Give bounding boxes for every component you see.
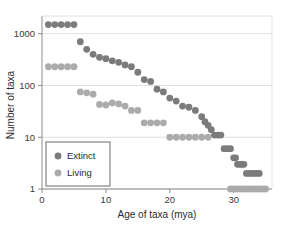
- data-point: [173, 134, 180, 141]
- data-point: [109, 100, 116, 107]
- x-tick-label: 10: [101, 194, 112, 205]
- data-point: [71, 63, 78, 70]
- legend-label: Living: [67, 167, 92, 178]
- data-point: [51, 63, 58, 70]
- data-point: [58, 63, 65, 70]
- data-point: [141, 76, 148, 83]
- data-point: [179, 103, 186, 110]
- data-point: [154, 86, 161, 93]
- data-point: [64, 21, 71, 28]
- data-point: [102, 102, 109, 109]
- x-axis-title: Age of taxa (mya): [118, 209, 197, 220]
- data-point: [45, 21, 52, 28]
- data-point: [83, 46, 90, 53]
- data-point: [109, 57, 116, 64]
- data-point: [77, 38, 84, 45]
- data-point: [90, 51, 97, 58]
- data-point: [147, 119, 154, 126]
- data-point: [166, 95, 173, 102]
- data-point: [134, 107, 141, 114]
- data-point: [96, 101, 103, 108]
- data-point: [262, 186, 269, 193]
- legend-label: Extinct: [67, 150, 96, 161]
- data-point: [179, 134, 186, 141]
- data-point: [141, 119, 148, 126]
- data-point: [192, 134, 199, 141]
- data-point: [232, 154, 239, 161]
- y-tick-label: 1000: [14, 28, 35, 39]
- data-point: [71, 21, 78, 28]
- data-point: [205, 134, 212, 141]
- data-point: [186, 134, 193, 141]
- data-point: [115, 101, 122, 108]
- data-point: [64, 63, 71, 70]
- legend-marker: [55, 170, 62, 177]
- data-point: [128, 107, 135, 114]
- x-tick-label: 20: [164, 194, 175, 205]
- y-tick-label: 10: [24, 132, 35, 143]
- data-point: [102, 55, 109, 62]
- data-point: [51, 21, 58, 28]
- data-point: [77, 89, 84, 96]
- data-point: [147, 78, 154, 85]
- data-point: [166, 134, 173, 141]
- y-tick-label: 100: [19, 80, 35, 91]
- data-point: [134, 69, 141, 76]
- data-point: [96, 54, 103, 61]
- data-point: [128, 63, 135, 70]
- chart-canvas: 11010010000102030 ExtinctLiving Age of t…: [0, 0, 284, 225]
- chart-legend: ExtinctLiving: [46, 142, 110, 186]
- y-tick-label: 1: [30, 183, 35, 194]
- data-point: [198, 134, 205, 141]
- data-point: [227, 145, 234, 152]
- scatter-plot-figure: 11010010000102030 ExtinctLiving Age of t…: [0, 0, 284, 225]
- y-axis-title: Number of taxa: [5, 70, 16, 139]
- data-point: [83, 89, 90, 96]
- data-point: [173, 98, 180, 105]
- data-point: [160, 89, 167, 96]
- data-point: [90, 91, 97, 98]
- data-point: [256, 170, 263, 177]
- data-point: [217, 132, 224, 139]
- data-point: [115, 59, 122, 66]
- legend-marker: [55, 153, 62, 160]
- data-point: [122, 61, 129, 68]
- data-point: [154, 119, 161, 126]
- data-point: [45, 63, 52, 70]
- x-tick-label: 0: [39, 194, 44, 205]
- data-point: [122, 103, 129, 110]
- data-point: [58, 21, 65, 28]
- x-tick-label: 30: [228, 194, 239, 205]
- data-point: [240, 161, 247, 168]
- data-point: [186, 104, 193, 111]
- data-point: [192, 107, 199, 114]
- data-point: [160, 119, 167, 126]
